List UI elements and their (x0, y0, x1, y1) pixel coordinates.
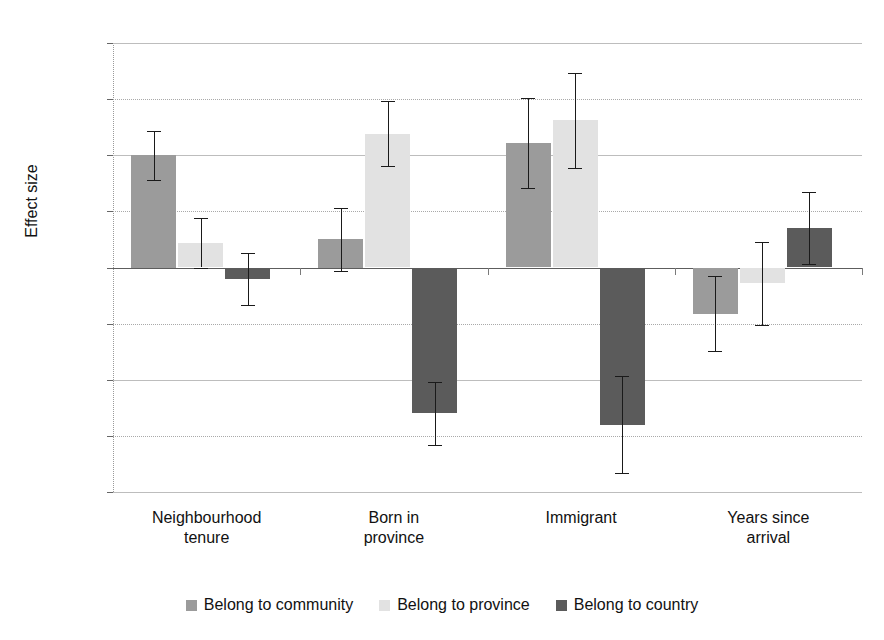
category-label-line: Born in (300, 508, 487, 528)
gridline (113, 436, 862, 437)
error-bar-cap-top (194, 218, 208, 219)
y-tick-mark (107, 43, 113, 44)
error-bar-cap-top (147, 131, 161, 132)
legend-label: Belong to province (397, 596, 530, 614)
chart-legend: Belong to communityBelong to provinceBel… (0, 596, 884, 614)
error-bar-cap-bottom (428, 445, 442, 446)
gridline (113, 155, 862, 156)
figure-root: Effect size 0.200.150.100.050.00−0.05−0.… (0, 0, 884, 640)
error-bar-stem (762, 242, 763, 325)
y-tick-mark (107, 324, 113, 325)
legend-swatch-icon (379, 600, 390, 611)
error-bar-cap-top (615, 376, 629, 377)
error-bar-cap-bottom (147, 180, 161, 181)
gridline (113, 492, 862, 493)
error-bar-cap-bottom (521, 188, 535, 189)
error-bar-stem (248, 253, 249, 305)
cut-off-title (0, 0, 884, 2)
plot-area: 0.200.150.100.050.00−0.05−0.10−0.15−0.20 (113, 43, 862, 492)
error-bar-cap-top (568, 73, 582, 74)
y-axis-title: Effect size (23, 121, 41, 281)
error-bar-stem (575, 73, 576, 167)
gridline (113, 211, 862, 212)
error-bar-cap-bottom (381, 166, 395, 167)
error-bar-stem (528, 98, 529, 188)
group-separator (488, 268, 489, 275)
error-bar-cap-top (241, 253, 255, 254)
legend-item[interactable]: Belong to country (556, 596, 699, 614)
error-bar-cap-top (334, 208, 348, 209)
error-bar-stem (622, 376, 623, 473)
y-tick-mark (107, 99, 113, 100)
y-tick-mark (107, 492, 113, 493)
gridline (113, 380, 862, 381)
legend-item[interactable]: Belong to community (186, 596, 353, 614)
error-bar-cap-top (381, 101, 395, 102)
legend-label: Belong to community (204, 596, 353, 614)
error-bar-stem (154, 131, 155, 180)
gridline (113, 324, 862, 325)
error-bar-stem (435, 382, 436, 445)
error-bar-stem (809, 192, 810, 264)
category-label: Immigrant (488, 508, 675, 528)
error-bar-cap-bottom (334, 271, 348, 272)
group-separator (300, 268, 301, 275)
error-bar-cap-top (521, 98, 535, 99)
error-bar-cap-top (428, 382, 442, 383)
error-bar-cap-top (755, 242, 769, 243)
error-bar-cap-bottom (755, 325, 769, 326)
error-bar-cap-top (708, 276, 722, 277)
category-label: Born inprovince (300, 508, 487, 548)
y-tick-mark (107, 380, 113, 381)
error-bar-stem (388, 101, 389, 166)
y-tick-mark (107, 155, 113, 156)
error-bar-cap-bottom (708, 351, 722, 352)
legend-swatch-icon (186, 600, 197, 611)
legend-label: Belong to country (574, 596, 699, 614)
gridline (113, 99, 862, 100)
y-tick-mark (107, 268, 113, 269)
y-tick-mark (107, 211, 113, 212)
error-bar-cap-bottom (568, 168, 582, 169)
category-label-line: tenure (113, 528, 300, 548)
legend-swatch-icon (556, 600, 567, 611)
gridline (113, 43, 862, 44)
category-label-line: province (300, 528, 487, 548)
category-label: Years sincearrival (675, 508, 862, 548)
error-bar-stem (341, 208, 342, 271)
category-label-line: Neighbourhood (113, 508, 300, 528)
error-bar-cap-bottom (615, 473, 629, 474)
error-bar-cap-top (802, 192, 816, 193)
error-bar-cap-bottom (241, 305, 255, 306)
error-bar-cap-bottom (802, 264, 816, 265)
legend-item[interactable]: Belong to province (379, 596, 530, 614)
category-label-line: Years since (675, 508, 862, 528)
error-bar-stem (201, 218, 202, 267)
y-tick-mark (107, 436, 113, 437)
category-label-line: arrival (675, 528, 862, 548)
category-label: Neighbourhoodtenure (113, 508, 300, 548)
error-bar-stem (715, 276, 716, 350)
error-bar-cap-bottom (194, 268, 208, 269)
group-separator (675, 268, 676, 275)
group-separator (862, 268, 863, 275)
category-label-line: Immigrant (488, 508, 675, 528)
